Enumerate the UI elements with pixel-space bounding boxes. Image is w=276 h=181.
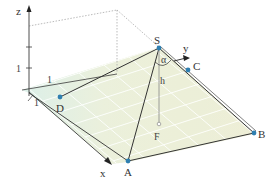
point-B-label: B bbox=[258, 128, 265, 140]
y-unit-label: 1 bbox=[47, 74, 52, 85]
point-S bbox=[157, 46, 162, 51]
z-axis: z 1 bbox=[16, 5, 32, 96]
point-C bbox=[186, 68, 191, 73]
point-A-label: A bbox=[124, 166, 132, 178]
z-unit-label: 1 bbox=[16, 63, 21, 74]
point-C-label: C bbox=[193, 60, 200, 72]
height-label: h bbox=[160, 75, 165, 86]
x-axis-label: x bbox=[100, 167, 106, 179]
foot-point-F bbox=[157, 122, 161, 126]
point-S-label: S bbox=[154, 34, 160, 46]
point-A bbox=[126, 159, 131, 164]
y-axis-arrow: y bbox=[174, 42, 190, 61]
point-B bbox=[252, 131, 257, 136]
z-axis-label: z bbox=[16, 5, 21, 17]
pyramid-diagram: z 1 1 x 1 h F α y bbox=[0, 0, 276, 181]
point-F-label: F bbox=[154, 131, 160, 142]
point-D-label: D bbox=[56, 102, 64, 114]
y-axis-label: y bbox=[183, 42, 189, 54]
angle-label: α bbox=[161, 54, 167, 65]
point-D bbox=[58, 95, 63, 100]
